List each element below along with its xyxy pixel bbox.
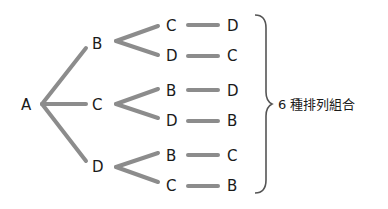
node-l3-3: D bbox=[227, 82, 239, 100]
edge-d-b bbox=[116, 153, 158, 167]
node-l1-3: D bbox=[92, 158, 104, 176]
node-l2-3: B bbox=[166, 82, 176, 100]
edge-c-b bbox=[116, 89, 158, 104]
node-l3-5: C bbox=[227, 147, 237, 165]
edge-b-c bbox=[116, 26, 158, 41]
summary-label: 6 種排列組合 bbox=[278, 97, 355, 112]
node-root: A bbox=[21, 96, 32, 114]
node-l2-2: D bbox=[166, 47, 178, 65]
node-l3-6: B bbox=[227, 177, 237, 195]
node-l2-4: D bbox=[166, 112, 178, 130]
edge-d-c bbox=[116, 167, 158, 182]
node-l2-5: B bbox=[166, 147, 176, 165]
edge-c-d bbox=[116, 104, 158, 118]
edge-b-d bbox=[116, 41, 158, 55]
curly-brace bbox=[255, 15, 272, 193]
node-l2-1: C bbox=[166, 17, 176, 35]
node-l1-1: B bbox=[92, 35, 102, 53]
node-l3-4: B bbox=[227, 112, 237, 130]
node-l3-2: C bbox=[227, 47, 237, 65]
node-l2-6: C bbox=[166, 177, 176, 195]
edge-a-b bbox=[42, 48, 86, 104]
edge-a-d bbox=[42, 104, 86, 161]
node-l3-1: D bbox=[227, 17, 239, 35]
permutation-tree-diagram: A B C D C D B D B C D C D B C B 6 種排列組合 bbox=[0, 0, 388, 209]
node-l1-2: C bbox=[92, 96, 102, 114]
